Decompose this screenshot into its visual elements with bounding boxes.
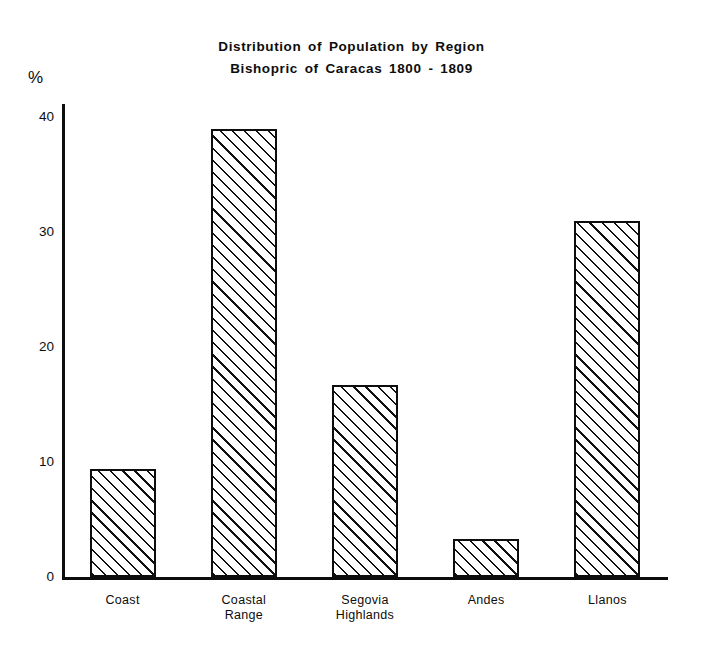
x-category-label-line: Coast [53, 593, 193, 608]
y-tick-label: 40 [18, 110, 54, 124]
y-tick-label: 20 [18, 340, 54, 354]
x-category-label: Coast [53, 593, 193, 608]
x-category-label: Llanos [537, 593, 677, 608]
y-tick-label: 0 [18, 570, 54, 584]
x-category-label: CoastalRange [174, 593, 314, 623]
bar-chart-figure: Distribution of Population by Region Bis… [0, 0, 703, 654]
bar [453, 539, 519, 577]
x-category-label-line: Range [174, 608, 314, 623]
x-category-label-line: Segovia [295, 593, 435, 608]
x-category-label-line: Highlands [295, 608, 435, 623]
x-category-label-line: Coastal [174, 593, 314, 608]
bar [90, 469, 156, 577]
x-axis-line [62, 577, 668, 580]
x-category-label: SegoviaHighlands [295, 593, 435, 623]
plot-area: 010203040CoastCoastalRangeSegoviaHighlan… [0, 0, 703, 654]
bar [211, 129, 277, 578]
y-tick-label: 10 [18, 455, 54, 469]
y-tick-label: 30 [18, 225, 54, 239]
bar [332, 385, 398, 577]
x-category-label-line: Llanos [537, 593, 677, 608]
y-axis-line [62, 104, 65, 580]
x-category-label-line: Andes [416, 593, 556, 608]
bar [574, 221, 640, 578]
x-category-label: Andes [416, 593, 556, 608]
